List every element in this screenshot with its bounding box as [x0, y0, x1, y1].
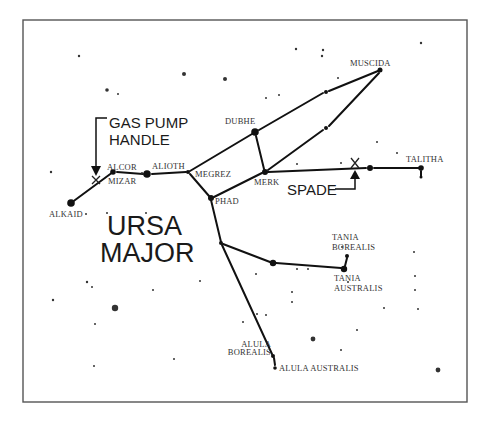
star-tania-australis	[341, 266, 347, 272]
gas-pump-label-line2: HANDLE	[109, 131, 170, 148]
label-alula-borealis-2: BOREALIS	[228, 347, 271, 357]
star-alioth	[143, 170, 151, 178]
ursa-major-star-chart: MUSCIDA DUBHE MEGREZ MERK PHAD ALIOTH AL…	[0, 0, 488, 422]
star-merk	[262, 169, 268, 175]
label-mizar: MIZAR	[108, 176, 137, 186]
star-spade	[367, 165, 373, 171]
title-line2: MAJOR	[100, 238, 195, 268]
constellation-title: URSA MAJOR	[100, 211, 195, 268]
label-phad: PHAD	[215, 196, 239, 206]
star-muscida-mid-lower	[324, 126, 328, 130]
label-alula-australis: ALULA AUSTRALIS	[279, 363, 359, 373]
label-alioth: ALIOTH	[152, 161, 185, 171]
star-leg-junction	[219, 241, 223, 245]
star-phad	[208, 195, 214, 201]
label-megrez: MEGREZ	[195, 169, 231, 179]
label-alcor: ALCOR	[107, 162, 137, 172]
star-alula-borealis	[271, 354, 275, 358]
star-alula-australis	[273, 366, 277, 370]
star-muscida	[378, 68, 383, 73]
gas-pump-label-line1: GAS PUMP	[109, 114, 188, 131]
star-muscida-mid-upper	[324, 90, 328, 94]
label-muscida: MUSCIDA	[350, 58, 391, 68]
star-tania-borealis	[345, 254, 349, 258]
star-talitha-companion	[420, 176, 423, 179]
label-tania-australis-1: TANIA	[334, 273, 361, 283]
label-tania-australis-2: AUSTRALIS	[334, 283, 383, 293]
star-megrez	[186, 170, 190, 174]
star-talitha	[418, 165, 424, 171]
label-tania-borealis-2: BOREALIS	[332, 242, 375, 252]
star-leg-mid	[270, 260, 276, 266]
star-alkaid	[67, 199, 75, 207]
star-dubhe	[251, 128, 259, 136]
title-line1: URSA	[107, 211, 182, 241]
label-merk: MERK	[254, 177, 280, 187]
label-dubhe: DUBHE	[225, 116, 255, 126]
label-tania-borealis-1: TANIA	[332, 232, 359, 242]
label-alkaid: ALKAID	[49, 209, 83, 219]
spade-label: SPADE	[287, 181, 337, 198]
label-talitha: TALITHA	[406, 154, 444, 164]
